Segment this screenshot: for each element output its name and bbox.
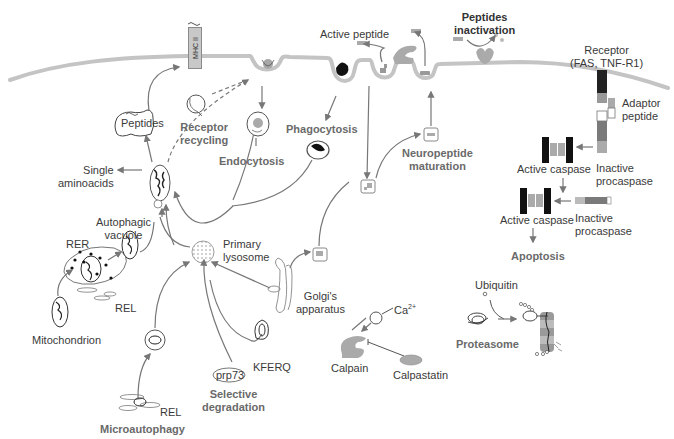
calpain-label: Calpain (331, 362, 368, 375)
calpastatin-label: Calpastatin (393, 369, 448, 382)
rel-label-top: REL (115, 302, 136, 315)
endocytosis-label: Endocytosis (219, 155, 284, 168)
peptidase-enzyme (393, 46, 417, 64)
apoptosis-label: Apoptosis (511, 250, 565, 263)
microautophagy-vesicle (145, 330, 165, 350)
unfolded-protein-shape (468, 313, 488, 324)
calpain-shape (341, 336, 366, 358)
active-caspase-1-shape (542, 137, 573, 163)
active-peptide-label: Active peptide (320, 28, 389, 41)
phagocytosis-label: Phagocytosis (286, 123, 358, 136)
fas-receptor (597, 70, 615, 153)
receptor-recycling-label: Receptor recycling (180, 121, 228, 147)
microautophagy-label: Microautophagy (100, 423, 185, 436)
primary-lysosome-label: Primary lysosome (223, 238, 269, 264)
active-caspase-label-2: Active caspase (500, 214, 574, 227)
mhc-ii-label: MHC II (192, 37, 199, 59)
peptides-inactivation-label: Peptides inactivation (454, 11, 515, 37)
primary-lysosome-shape (192, 241, 214, 263)
autophagic-vacuole-label: Autophagic vacuole (96, 216, 151, 242)
rer-label: RER (66, 238, 89, 251)
ubiquitin-label: Ubiquitin (475, 279, 518, 292)
inactive-procaspase-2-shape (575, 197, 611, 204)
active-caspase-2-shape (520, 188, 551, 214)
kferq-protein-shape (255, 320, 269, 339)
proteasome-shape (519, 302, 562, 355)
selective-degradation-label: Selective degradation (202, 388, 265, 414)
inactive-procaspase-label-1: Inactive procaspase (596, 162, 653, 188)
golgi-label: Golgi's apparatus (296, 290, 345, 316)
proteasome-label: Proteasome (456, 338, 519, 351)
calcium-label: Ca2+ (394, 300, 416, 317)
mhc-ii-protein: MHC II (188, 27, 202, 69)
adaptor-peptide-label: Adaptor peptide (622, 97, 661, 123)
inactive-procaspase-label-2: Inactive procaspase (575, 212, 632, 238)
single-aminoacids-label: Single aminoacids (58, 164, 114, 190)
microautophagy-rel-shape (119, 395, 160, 411)
neuropeptide-maturation-label: Neuropeptide maturation (402, 147, 473, 173)
plus-circle (370, 312, 382, 324)
active-caspase-label-1: Active caspase (517, 163, 591, 176)
rel-label-bottom: REL (160, 406, 181, 419)
mitochondrion-label: Mitochondrion (32, 334, 101, 347)
prp73-label: prp73 (216, 369, 244, 382)
mhc-peptide-wave (188, 23, 200, 26)
peptides-label: Peptides (121, 117, 164, 130)
calpastatin-shape (400, 355, 422, 365)
kferq-label: KFERQ (253, 361, 291, 374)
receptor-label: Receptor (FAS, TNF-R1) (570, 44, 643, 70)
golgi-shape (268, 258, 292, 313)
